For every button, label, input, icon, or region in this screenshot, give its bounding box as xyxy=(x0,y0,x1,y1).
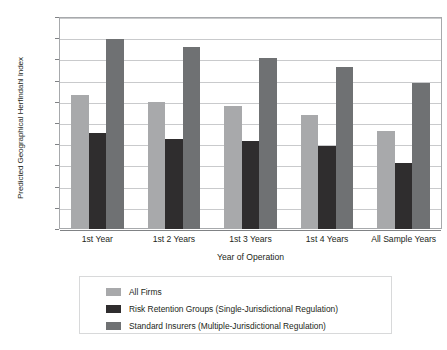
y-axis-title: Predicted Geographical Herfindahl Index xyxy=(14,8,28,248)
bar xyxy=(224,106,242,229)
chart-legend: All FirmsRisk Retention Groups (Single-J… xyxy=(79,276,392,334)
x-axis-title: Year of Operation xyxy=(59,252,442,262)
bar xyxy=(165,139,183,229)
legend-item[interactable]: Risk Retention Groups (Single-Jurisdicti… xyxy=(106,303,338,315)
legend-label: Standard Insurers (Multiple-Jurisdiction… xyxy=(129,322,326,331)
bar xyxy=(336,67,354,229)
legend-swatch-icon xyxy=(106,288,121,296)
bar xyxy=(148,102,166,229)
bar xyxy=(318,146,336,229)
bar xyxy=(89,133,107,229)
y-axis-tick-mark xyxy=(55,229,59,230)
bar-group-container xyxy=(59,17,442,229)
bar xyxy=(412,83,430,229)
bar xyxy=(377,131,395,229)
chart-figure: Predicted Geographical Herfindahl Index … xyxy=(0,0,447,350)
legend-item[interactable]: All Firms xyxy=(106,286,162,298)
bar xyxy=(395,163,413,229)
legend-label: Risk Retention Groups (Single-Jurisdicti… xyxy=(129,305,338,314)
legend-swatch-icon xyxy=(106,322,121,330)
bar xyxy=(242,141,260,229)
bar xyxy=(71,95,89,229)
legend-swatch-icon xyxy=(106,305,121,313)
legend-label: All Firms xyxy=(129,288,162,297)
bar xyxy=(183,47,201,229)
legend-item[interactable]: Standard Insurers (Multiple-Jurisdiction… xyxy=(106,320,326,332)
x-axis-tick-label: All Sample Years xyxy=(354,234,447,244)
gridline xyxy=(60,230,441,231)
bar xyxy=(301,115,319,229)
bar xyxy=(259,58,277,229)
bar xyxy=(106,39,124,229)
